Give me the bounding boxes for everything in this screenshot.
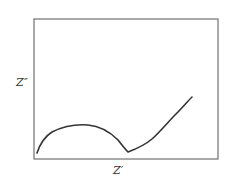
y-axis-label: Z″ xyxy=(15,76,29,89)
x-axis-label: Z′ xyxy=(112,164,124,177)
nyquist-chart: Z″ Z′ xyxy=(0,0,232,184)
plot-frame xyxy=(34,19,218,159)
impedance-curve xyxy=(37,97,192,153)
